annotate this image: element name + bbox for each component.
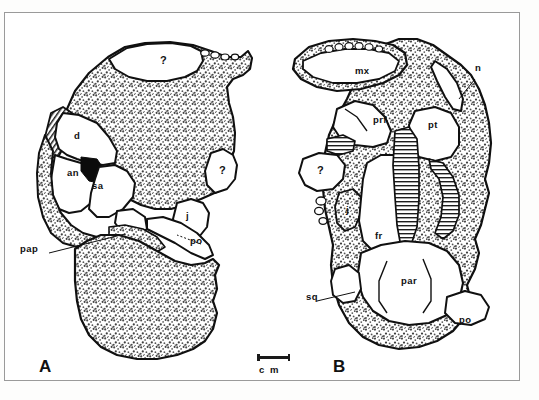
panel-b: mx n prf pt ? j fr sq par po B: [275, 13, 521, 380]
label-squamosal-b: sq: [306, 292, 318, 302]
panel-letter-b: B: [333, 357, 345, 377]
label-angular-a: an: [67, 168, 79, 178]
bone-squamosal-b: [331, 265, 361, 303]
label-postorbital-a: po: [190, 236, 202, 246]
hatched-midline-column-b: [393, 127, 419, 247]
label-frontal-b: fr: [375, 231, 383, 241]
label-parietal-b: par: [401, 276, 417, 286]
plate-frame: ? d an sa ? j po pap A: [4, 12, 520, 381]
scale-bar-line: [257, 356, 290, 359]
label-pterygoid-b: pt: [428, 120, 438, 130]
label-surangular-a: sa: [92, 181, 103, 191]
scale-bar: c m: [253, 354, 295, 380]
scale-bar-unit-label: c m: [259, 364, 280, 375]
scale-bar-tick-right: [288, 354, 291, 361]
label-postorbital-b: po: [459, 315, 471, 325]
label-query-right-a: ?: [219, 165, 226, 176]
panel-a: ? d an sa ? j po pap A: [5, 13, 275, 380]
label-dentary-a: d: [74, 131, 80, 141]
label-pap-a: pap: [20, 244, 38, 254]
label-maxilla-b: mx: [355, 66, 370, 76]
label-query-b: ?: [317, 165, 324, 176]
figure-plate: ? d an sa ? j po pap A: [0, 0, 539, 400]
label-nasal-b: n: [475, 63, 481, 73]
panel-b-drawing: [275, 13, 521, 382]
label-jugal-a: j: [186, 211, 189, 221]
label-prefrontal-b: prf: [373, 115, 387, 125]
panel-letter-a: A: [39, 357, 51, 377]
label-jugal-b: j: [346, 205, 349, 215]
panel-a-drawing: [5, 13, 275, 382]
label-query-upper-a: ?: [160, 55, 167, 66]
